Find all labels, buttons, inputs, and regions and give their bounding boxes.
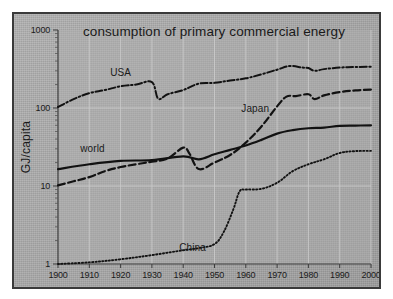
series-label-china: China (179, 242, 206, 253)
x-axis-tick-labels: 1900191019201930194019501960197019801990… (48, 270, 379, 280)
y-axis-major-ticks (53, 30, 58, 264)
x-tick-label: 1970 (267, 270, 286, 280)
x-axis-ticks (58, 264, 371, 268)
y-tick-label: 100 (36, 103, 51, 113)
x-tick-label: 1930 (142, 270, 161, 280)
x-tick-label: 1990 (330, 270, 349, 280)
series-label-usa: USA (110, 67, 131, 78)
y-tick-label: 10 (40, 181, 50, 191)
y-axis-tick-labels: 1000100101 (31, 25, 50, 269)
x-tick-label: 1950 (205, 270, 224, 280)
x-tick-label: 1910 (80, 270, 99, 280)
energy-consumption-line-chart: 1000100101 19001910192019301940195019601… (14, 14, 379, 287)
chart-title: consumption of primary commercial energy (83, 24, 345, 39)
x-tick-label: 1900 (48, 270, 67, 280)
y-tick-label: 1000 (31, 25, 50, 35)
y-axis-title: GJ/capita (19, 121, 33, 174)
y-tick-label: 1 (45, 259, 50, 269)
series-label-japan: Japan (241, 103, 269, 114)
x-tick-label: 2000 (361, 270, 379, 280)
chart-frame: 1000100101 19001910192019301940195019601… (12, 12, 381, 289)
x-tick-label: 1940 (174, 270, 193, 280)
x-tick-label: 1920 (111, 270, 130, 280)
series-label-world: world (79, 143, 104, 154)
x-tick-label: 1980 (299, 270, 318, 280)
figure-container: 1000100101 19001910192019301940195019601… (0, 0, 393, 299)
x-tick-label: 1960 (236, 270, 255, 280)
